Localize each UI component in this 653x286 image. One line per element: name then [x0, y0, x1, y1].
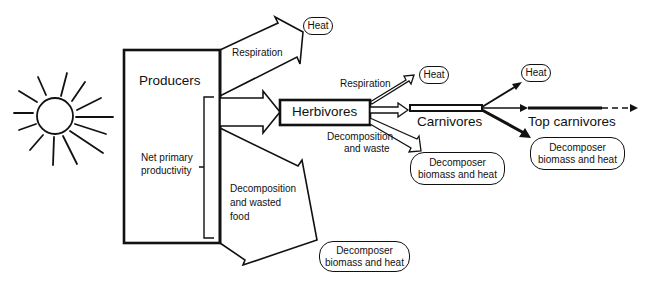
decomposer-3-line2: biomass and heat — [538, 154, 617, 166]
net-primary-label-1: Net primary — [141, 152, 193, 164]
top-carnivores-label: Top carnivores — [528, 114, 616, 130]
decomp-waste-label-2: and waste — [344, 143, 390, 155]
heat-node-3: Heat — [521, 64, 551, 82]
net-primary-label-2: productivity — [141, 165, 192, 177]
arrowhead-dashed — [630, 104, 638, 112]
heat-node-2: Heat — [419, 66, 449, 84]
decomposition-label-2: and wasted — [230, 197, 281, 209]
herbivores-label: Herbivores — [292, 104, 357, 120]
heat-label-2: Heat — [423, 69, 444, 81]
sun-icon — [14, 73, 113, 165]
respiration-label-herbivores: Respiration — [340, 78, 391, 90]
decomposer-1-line1: Decomposer — [336, 245, 393, 257]
heat-label-1: Heat — [307, 20, 328, 32]
carnivores-bar — [410, 105, 482, 111]
producers-label: Producers — [139, 73, 201, 89]
decomposition-label-3: food — [230, 211, 249, 223]
respiration-label-producers: Respiration — [232, 47, 283, 59]
decomposer-2-line1: Decomposer — [429, 157, 486, 169]
arrowhead-top-carnivores — [520, 104, 528, 112]
arrow-to-carnivores — [370, 103, 408, 117]
arrow-to-herbivores — [220, 91, 280, 133]
decomposer-node-2: Decomposer biomass and heat — [410, 152, 505, 185]
heat-label-3: Heat — [525, 67, 546, 79]
decomposer-2-line2: biomass and heat — [418, 169, 497, 181]
decomposer-node-3: Decomposer biomass and heat — [530, 137, 625, 170]
decomposition-label-1: Decomposition — [230, 183, 296, 195]
energy-flow-diagram: Producers Net primary productivity Respi… — [0, 0, 653, 286]
carnivores-label: Carnivores — [417, 114, 482, 130]
heat-node-1: Heat — [303, 17, 333, 35]
decomp-waste-label-1: Decomposition — [327, 131, 393, 143]
decomposer-3-line1: Decomposer — [549, 142, 606, 154]
decomposer-1-line2: biomass and heat — [325, 257, 404, 269]
decomposer-node-1: Decomposer biomass and heat — [319, 241, 410, 272]
